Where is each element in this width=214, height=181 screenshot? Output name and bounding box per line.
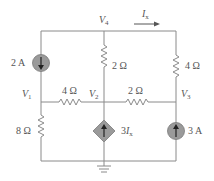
dependent-source-icon: [93, 120, 115, 142]
label-r-top-mid: 2 Ω: [112, 61, 127, 71]
label-r-left-bottom: 8 Ω: [16, 126, 31, 136]
label-r-mid-right: 2 Ω: [128, 86, 143, 96]
current-label-ix: Ix: [142, 9, 149, 21]
circuit-diagram: V4 V1 V2 V3 Ix 2 A 2 Ω 4 Ω 4 Ω 2 Ω 8 Ω 3…: [0, 0, 214, 181]
node-label-v2: V2: [89, 89, 99, 101]
label-r-top-right: 4 Ω: [185, 61, 200, 71]
label-r-mid-left: 4 Ω: [62, 86, 77, 96]
label-3a-source: 3 A: [188, 126, 202, 136]
current-source-3a-icon: [168, 123, 185, 140]
node-label-v4: V4: [99, 15, 109, 27]
current-arrow-icon: [134, 22, 160, 27]
current-source-2a-icon: [33, 55, 50, 72]
node-label-v1: V1: [22, 89, 32, 101]
node-label-v3: V3: [181, 89, 191, 101]
label-2a-source: 2 A: [11, 58, 25, 68]
label-dependent-source: 3Ix: [121, 126, 133, 138]
